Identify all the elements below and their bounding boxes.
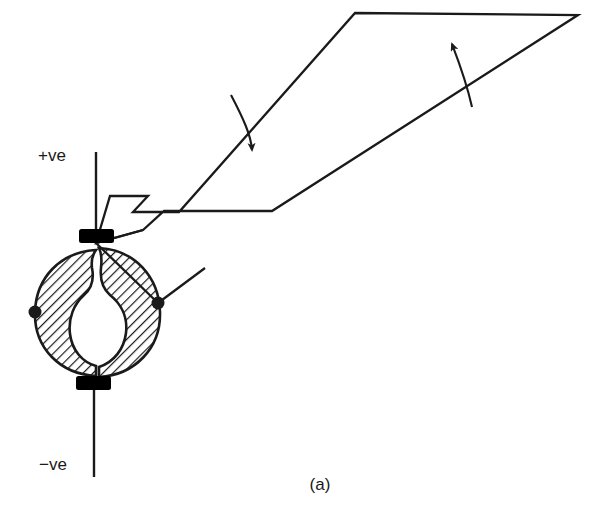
right-connection-node [152, 297, 165, 310]
positive-terminal-group: +ve [38, 146, 114, 243]
actuator-diagram: +ve −ve (a) [0, 0, 601, 529]
figure-container: +ve −ve (a) [0, 0, 601, 529]
rotation-arrow-up [452, 44, 472, 107]
bottom-contact-block [76, 376, 111, 390]
negative-terminal-group: −ve [39, 376, 111, 477]
left-connection-node [29, 306, 42, 319]
split-hatched-rotor [20, 235, 180, 395]
figure-caption: (a) [310, 475, 331, 494]
top-contact-block [79, 229, 114, 243]
positive-terminal-label: +ve [38, 146, 66, 165]
negative-terminal-label: −ve [39, 455, 67, 474]
vane-blade-polygon [96, 13, 578, 243]
